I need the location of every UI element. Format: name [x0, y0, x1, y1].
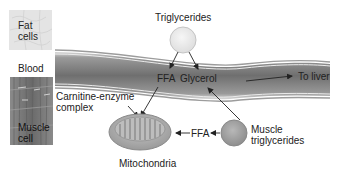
carnitine-label-line1: Carnitine-enzyme [56, 91, 134, 102]
ffa-muscle-label: FFA [191, 128, 209, 139]
mitochondrion [109, 114, 171, 150]
to-liver-label: To liver [298, 71, 330, 82]
blood-label: Blood [18, 63, 44, 74]
carnitine-enzyme-label: Carnitine-enzyme complex [56, 91, 134, 113]
triglycerides-label: Triglycerides [155, 12, 211, 23]
fat-cells-label: Fat cells [18, 20, 38, 42]
muscle-cell-label: Muscle cell [18, 122, 50, 144]
ffa-blood-label: FFA [157, 73, 175, 84]
muscle-triglycerides-circle [221, 120, 247, 146]
fat-cells-label-line1: Fat [18, 20, 38, 31]
triglycerides-circle [170, 27, 196, 53]
muscle-triglycerides-label: Muscle triglycerides [251, 124, 304, 146]
muscle-cell-label-line2: cell [18, 133, 50, 144]
fat-cells-label-line2: cells [18, 31, 38, 42]
glycerol-label: Glycerol [180, 73, 217, 84]
diagram-canvas [0, 0, 353, 175]
muscle-tg-label-line1: Muscle [251, 124, 304, 135]
muscle-tg-label-line2: triglycerides [251, 135, 304, 146]
carnitine-label-line2: complex [56, 102, 134, 113]
mitochondria-label: Mitochondria [119, 158, 176, 169]
muscle-cell-label-line1: Muscle [18, 122, 50, 133]
